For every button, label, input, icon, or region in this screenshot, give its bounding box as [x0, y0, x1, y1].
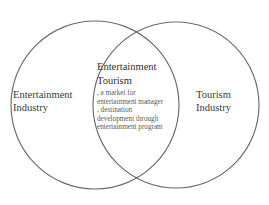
- right-set-label-line-1: Tourism: [196, 88, 266, 101]
- intersection-bullet-line-2: entertainment manager: [97, 98, 177, 107]
- intersection-bullets: , a market for entertainment manager , d…: [97, 89, 177, 132]
- intersection-bullet-line-1: , a market for: [97, 89, 177, 98]
- left-set-label: Entertainment Industry: [13, 88, 91, 114]
- intersection-bullet-line-3: , destination: [97, 106, 177, 115]
- right-set-label: Tourism Industry: [196, 88, 266, 114]
- left-set-label-line-2: Industry: [13, 101, 91, 114]
- venn-diagram: Entertainment Industry Tourism Industry …: [0, 0, 269, 205]
- intersection-bullet-line-4: development through: [97, 115, 177, 124]
- intersection-title: Entertainment Tourism: [97, 60, 177, 87]
- intersection-title-line-2: Tourism: [97, 74, 177, 88]
- intersection-bullet-line-5: entertainment program: [97, 123, 177, 132]
- right-set-label-line-2: Industry: [196, 101, 266, 114]
- intersection-title-line-1: Entertainment: [97, 60, 177, 74]
- intersection-label: Entertainment Tourism , a market for ent…: [97, 60, 177, 132]
- left-set-label-line-1: Entertainment: [13, 88, 91, 101]
